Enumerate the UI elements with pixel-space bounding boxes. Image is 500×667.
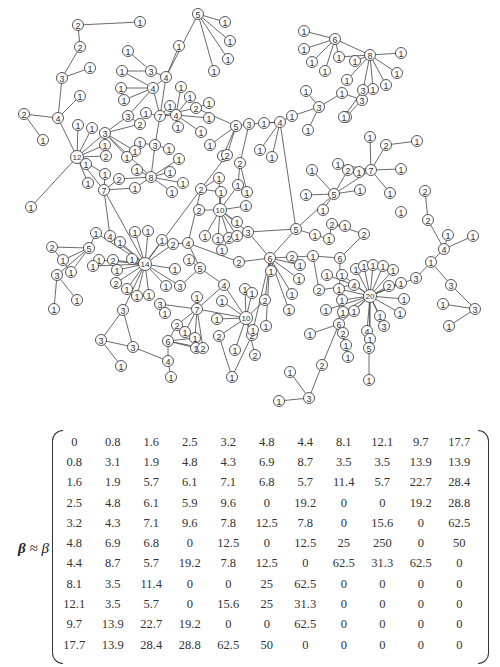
- svg-text:1: 1: [340, 308, 345, 318]
- svg-text:1: 1: [269, 153, 274, 163]
- matrix-cell: 12.5: [248, 513, 287, 533]
- matrix-cell: 0: [171, 574, 210, 594]
- svg-text:2: 2: [383, 141, 388, 151]
- svg-text:1: 1: [387, 189, 392, 199]
- graph-node: 2: [214, 331, 225, 342]
- graph-node: 1: [426, 257, 437, 268]
- graph-node: 2: [420, 186, 431, 197]
- graph-node: 2: [235, 158, 246, 169]
- graph-edge: [219, 336, 232, 377]
- graph-node: 1: [342, 75, 353, 86]
- svg-text:1: 1: [276, 397, 281, 407]
- graph-node: 1: [444, 321, 455, 332]
- svg-text:1: 1: [323, 306, 328, 316]
- svg-text:2: 2: [316, 286, 321, 296]
- matrix-cell: 0: [440, 574, 479, 594]
- matrix-cell: 0: [209, 615, 248, 635]
- graph-node: 1: [396, 207, 407, 218]
- matrix-cell: 0: [363, 615, 402, 635]
- svg-text:10: 10: [216, 206, 225, 215]
- graph-node: 1: [225, 36, 236, 47]
- matrix-cell: 7.8: [209, 513, 248, 533]
- matrix-cell: 3.1: [94, 452, 133, 472]
- graph-node: 2: [196, 184, 207, 195]
- svg-text:1: 1: [370, 261, 375, 271]
- svg-text:1: 1: [169, 188, 174, 198]
- svg-text:1: 1: [390, 266, 395, 276]
- svg-text:2: 2: [236, 258, 241, 268]
- svg-text:1: 1: [301, 45, 306, 55]
- svg-text:1: 1: [168, 373, 173, 383]
- matrix-cell: 25: [248, 594, 287, 614]
- svg-text:1: 1: [341, 113, 346, 123]
- matrix-cell: 8.1: [325, 432, 364, 452]
- graph-node: 2: [250, 350, 261, 361]
- svg-text:2: 2: [289, 253, 294, 263]
- matrix-cell: 15.6: [209, 594, 248, 614]
- svg-text:1: 1: [324, 271, 329, 281]
- matrix-cell: 7.1: [132, 513, 171, 533]
- graph-node: 1: [368, 260, 379, 271]
- svg-text:1: 1: [357, 186, 362, 196]
- graph-node: 1: [468, 231, 479, 242]
- svg-text:1: 1: [336, 285, 341, 295]
- graph-node: 20: [364, 290, 377, 303]
- matrix-cell: 0.8: [55, 452, 94, 472]
- graph-node: 1: [190, 333, 201, 344]
- graph-node: 2: [423, 215, 434, 226]
- matrix-row: 1.61.95.76.17.16.85.711.45.722.728.4: [55, 473, 479, 493]
- svg-text:1: 1: [206, 114, 211, 124]
- matrix-cell: 7.8: [286, 513, 325, 533]
- svg-text:1: 1: [234, 218, 239, 228]
- graph-node: 14: [139, 258, 152, 271]
- svg-text:2: 2: [216, 332, 221, 342]
- svg-text:1: 1: [219, 297, 224, 307]
- svg-text:1: 1: [342, 222, 347, 232]
- graph-node: 3: [123, 111, 134, 122]
- matrix-cell: 0: [55, 432, 94, 452]
- graph-node: 1: [274, 396, 285, 407]
- svg-text:1: 1: [162, 309, 167, 319]
- graph-node: 10: [240, 312, 253, 325]
- matrix-cell: 0.8: [94, 432, 133, 452]
- matrix-cell: 0: [171, 594, 210, 614]
- matrix-cell: 28.8: [171, 635, 210, 655]
- graph-edge: [322, 324, 339, 365]
- graph-node: 5: [329, 189, 340, 200]
- graph-node: 1: [287, 289, 298, 300]
- matrix-cell: 5.7: [132, 594, 171, 614]
- graph-node: 3: [146, 66, 157, 77]
- graph-edge: [104, 190, 145, 264]
- svg-text:6: 6: [165, 337, 170, 347]
- svg-text:1: 1: [326, 235, 331, 245]
- graph-node: 1: [364, 375, 375, 386]
- svg-text:8: 8: [148, 173, 153, 183]
- matrix-cell: 5.7: [132, 554, 171, 574]
- svg-text:1: 1: [414, 137, 419, 147]
- svg-text:1: 1: [40, 136, 45, 146]
- matrix-cell: 0: [248, 533, 287, 553]
- svg-text:1: 1: [89, 124, 94, 134]
- graph-node: 1: [87, 123, 98, 134]
- svg-text:1: 1: [207, 141, 212, 151]
- svg-text:3: 3: [472, 305, 477, 315]
- svg-text:4: 4: [441, 245, 446, 255]
- graph-node: 1: [214, 173, 225, 184]
- svg-text:1: 1: [180, 179, 185, 189]
- matrix-row: 17.713.928.428.862.55000000: [55, 635, 479, 655]
- matrix-cell: 8.7: [94, 554, 133, 574]
- svg-text:1: 1: [129, 255, 134, 265]
- svg-text:1: 1: [137, 18, 142, 28]
- svg-text:5: 5: [233, 122, 238, 132]
- svg-text:1: 1: [398, 279, 403, 289]
- svg-text:1: 1: [370, 85, 375, 95]
- svg-text:3: 3: [148, 67, 153, 77]
- svg-text:1: 1: [28, 203, 33, 213]
- graph-node: 1: [284, 305, 295, 316]
- svg-text:1: 1: [119, 67, 124, 77]
- graph-node: 3: [379, 321, 390, 332]
- graph-node: 1: [160, 308, 171, 319]
- svg-text:2: 2: [196, 206, 201, 216]
- matrix-cell: 7.8: [209, 554, 248, 574]
- svg-text:1: 1: [167, 102, 172, 112]
